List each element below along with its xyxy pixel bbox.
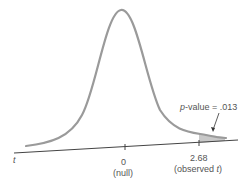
tick-label-2-68: 2.68 (190, 154, 208, 163)
observed-suffix: ) (219, 164, 222, 174)
tick-label-0: 0 (121, 158, 126, 167)
tick-sublabel-null: (null) (113, 169, 133, 178)
t-distribution-curve (26, 10, 226, 146)
arrow-head-icon (211, 127, 215, 132)
observed-prefix: (observed (174, 164, 217, 174)
tick-sublabel-observed: (observed t) (174, 165, 222, 174)
p-value-annotation: p-value = .013 (180, 103, 237, 112)
axis-variable-label: t (13, 156, 16, 165)
annotation-arrow (213, 113, 219, 130)
p-value-text: -value = .013 (185, 102, 237, 112)
